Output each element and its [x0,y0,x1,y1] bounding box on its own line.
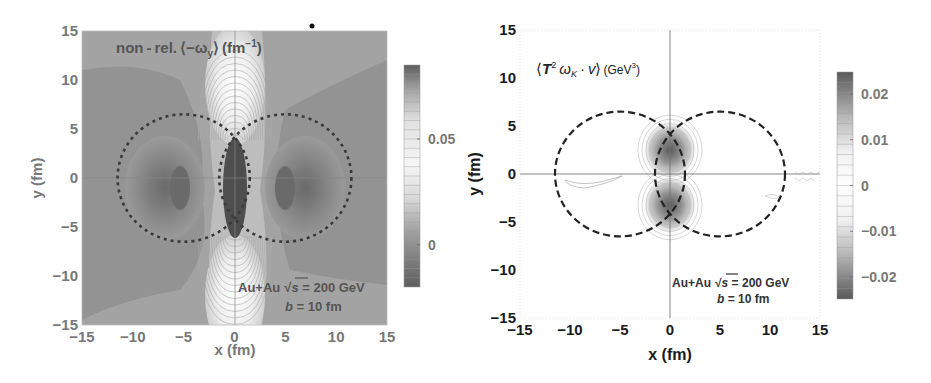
x-tick-label: 5 [716,321,724,338]
left-colorbar-ticks: 0.050 [417,131,455,253]
left-lobe [125,136,205,240]
colorbar-tick-label: 0.01 [861,132,888,148]
left-annotation-line2: b = 10 fm [285,299,342,314]
left-title-suffix: ) [257,39,262,56]
y-tick-label: −5 [61,218,78,235]
right-x-axis-label: x (fm) [648,346,692,363]
left-annotation-line1: Au+Au√s = 200 GeV [238,280,365,295]
y-tick-label: 0 [508,165,516,182]
left-colorbar: 0.050 [404,65,455,287]
x-tick-label: 5 [281,328,289,345]
colorbar-tick-label: −0.01 [861,223,897,239]
x-tick-label: −10 [557,321,582,338]
right-annotation-line1: Au+Au√s = 200 GeV [672,276,789,290]
x-tick-label: −10 [120,328,145,345]
x-tick-label: 10 [328,328,345,345]
left-title-prefix: non - rel. ⟨−ω [116,39,208,56]
x-tick-label: 15 [812,321,829,338]
y-tick-label: −10 [491,261,516,278]
y-tick-label: 10 [61,71,78,88]
y-tick-label: −5 [499,213,516,230]
right-colorbar-ticks: 0.020.010−0.01−0.02 [850,86,897,285]
y-tick-label: −15 [53,316,78,333]
left-plot-title: non - rel. ⟨−ωy⟩ (fm−1) [116,38,262,59]
left-x-axis-label: x (fm) [215,341,256,358]
y-tick-label: 15 [61,22,78,39]
y-tick-label: 5 [508,117,516,134]
right-colorbar: 0.020.010−0.01−0.02 [837,72,897,299]
right-panel: −15−10−5051015−15−10−5051015 x (fm) y (f… [466,21,897,363]
y-tick-label: 5 [70,120,78,137]
y-tick-label: 15 [499,21,516,38]
right-y-axis-label: y (fm) [466,152,483,196]
colorbar-tick-label: 0 [428,237,436,253]
x-tick-label: −5 [175,328,192,345]
x-tick-label: 15 [379,328,396,345]
y-tick-label: 10 [499,69,516,86]
right-annotation-line2: b = 10 fm [717,292,769,306]
stray-dot [310,24,315,29]
left-panel: −15−10−5051015−15−10−5051015 x (fm) y (f… [28,22,455,358]
colorbar-tick-label: 0.02 [861,86,888,102]
colorbar-tick-label: −0.02 [861,269,897,285]
y-tick-label: 0 [70,169,78,186]
x-tick-label: −5 [611,321,628,338]
y-tick-label: −10 [53,267,78,284]
colorbar-tick-label: 0.05 [428,131,455,147]
figure: −15−10−5051015−15−10−5051015 x (fm) y (f… [0,0,931,383]
x-tick-label: 0 [666,321,674,338]
left-lobe-core [170,166,190,210]
y-tick-label: −15 [491,309,516,326]
colorbar-tick-label: 0 [861,178,869,194]
x-tick-label: 10 [762,321,779,338]
left-title-mid: ⟩ (fm [213,39,245,56]
left-title-sup: −1 [245,38,257,49]
right-lobe-core [275,166,295,210]
left-y-axis-label: y (fm) [28,158,45,199]
